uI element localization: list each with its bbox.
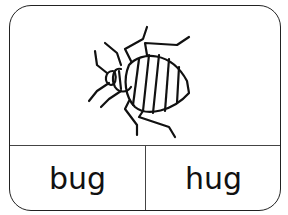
word-option-hug[interactable]: hug [146,146,281,210]
word-picture-card: bug hug [9,5,281,211]
word-option-bug[interactable]: bug [10,146,145,210]
picture-area [10,6,280,145]
bedbug-icon [81,21,201,141]
